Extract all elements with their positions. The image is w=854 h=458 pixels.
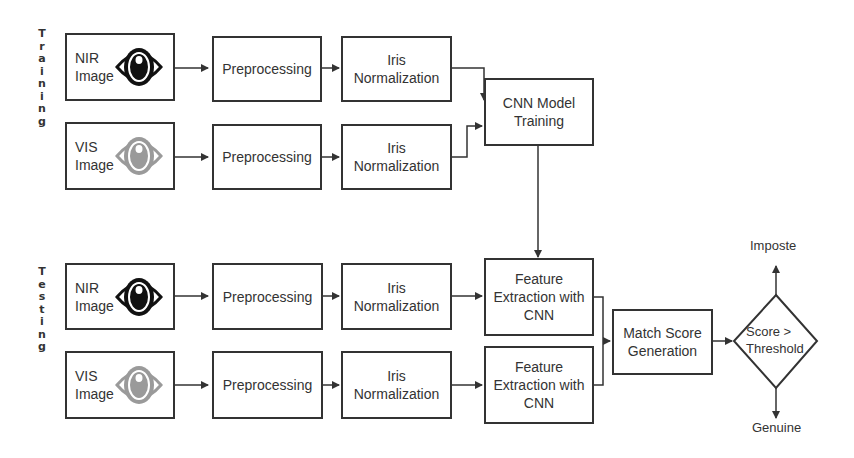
iris-label: Iris <box>387 367 406 385</box>
training-iris-normalization-box-1: Iris Normalization <box>341 36 452 102</box>
cnn-model-label: CNN Model <box>503 94 575 112</box>
testing-section-label: T e s t i n g <box>36 266 48 354</box>
iris-label: Iris <box>387 139 406 157</box>
gray-eye-icon <box>115 134 163 178</box>
impostor-output-label: Imposte <box>750 238 796 253</box>
normalization-label: Normalization <box>354 69 440 87</box>
training-nir-image-box: NIRImage <box>65 33 175 101</box>
testing-iris-normalization-box-1: Iris Normalization <box>341 263 452 330</box>
testing-nir-image-box: NIRImage <box>65 263 175 330</box>
normalization-label: Normalization <box>354 385 440 403</box>
cnn-label: CNN <box>524 306 554 324</box>
training-label: Training <box>514 112 564 130</box>
feature-label: Feature <box>515 270 563 288</box>
testing-preprocessing-box-1: Preprocessing <box>212 263 323 330</box>
extraction-with-label: Extraction with <box>493 376 584 394</box>
decision-diamond-label: Score > Threshold <box>746 323 804 357</box>
iris-label: Iris <box>387 51 406 69</box>
dark-eye-icon <box>115 45 163 89</box>
feature-extraction-box-2: Feature Extraction with CNN <box>484 346 594 424</box>
training-iris-normalization-box-2: Iris Normalization <box>341 124 452 190</box>
extraction-with-label: Extraction with <box>493 288 584 306</box>
feature-extraction-box-1: Feature Extraction with CNN <box>484 258 594 336</box>
match-score-generation-box: Match Score Generation <box>612 309 713 375</box>
cnn-model-training-box: CNN Model Training <box>484 78 594 146</box>
generation-label: Generation <box>628 342 697 360</box>
match-score-label: Match Score <box>623 324 702 342</box>
testing-iris-normalization-box-2: Iris Normalization <box>341 351 452 419</box>
gray-eye-icon <box>115 363 163 407</box>
training-section-label: T r a i n i n g <box>36 28 48 128</box>
dark-eye-icon <box>115 275 163 319</box>
score-label: Score > <box>746 323 804 340</box>
iris-label: Iris <box>387 279 406 297</box>
training-preprocessing-box-1: Preprocessing <box>212 36 322 102</box>
cnn-label: CNN <box>524 394 554 412</box>
feature-label: Feature <box>515 358 563 376</box>
testing-vis-image-box: VISImage <box>65 351 175 419</box>
training-preprocessing-box-2: Preprocessing <box>212 124 322 190</box>
normalization-label: Normalization <box>354 157 440 175</box>
genuine-output-label: Genuine <box>752 420 801 435</box>
normalization-label: Normalization <box>354 297 440 315</box>
threshold-label: Threshold <box>746 340 804 357</box>
testing-preprocessing-box-2: Preprocessing <box>212 351 323 419</box>
training-vis-image-box: VISImage <box>65 122 175 190</box>
